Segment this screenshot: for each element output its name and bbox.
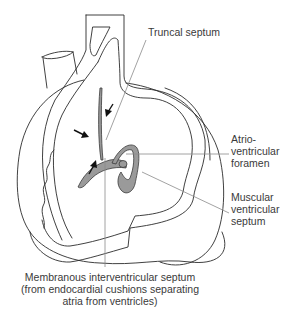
label-muscular-line-3: septum [231,215,279,227]
great-vessel-stub [42,51,77,88]
leader-muscular-septum [142,172,229,213]
arrow-left-icon [74,130,89,138]
label-muscular-line-2: ventricular [231,203,279,215]
arrow-top-icon [105,104,113,117]
label-av-line-1: Atrio- [231,133,279,145]
leader-truncal-septum [106,40,146,140]
label-membranous-line-1: Membranous interventricular septum [10,271,210,283]
label-membranous-line-3: atria from ventricles) [10,295,210,307]
label-membranous-line-2: (from endocardial cushions separating [10,283,210,295]
truncal-septum-structure [78,88,139,193]
label-truncal-septum: Truncal septum [148,26,220,38]
label-av-line-2: ventricular [231,145,279,157]
label-av-foramen: Atrio- ventricular foramen [231,133,279,169]
label-membranous-septum: Membranous interventricular septum (from… [10,271,210,307]
label-muscular-septum: Muscular ventricular septum [231,191,279,227]
label-muscular-line-1: Muscular [231,191,279,203]
label-av-line-3: foramen [231,157,279,169]
